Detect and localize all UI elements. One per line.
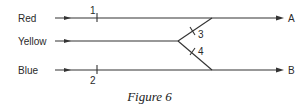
output-label-b: B bbox=[288, 65, 295, 76]
arrow-a-icon bbox=[276, 16, 284, 21]
output-label-a: A bbox=[288, 13, 295, 24]
marker-4: 4 bbox=[198, 46, 204, 57]
arrow-blue-icon bbox=[64, 68, 71, 72]
marker-1: 1 bbox=[90, 5, 96, 16]
tick-3 bbox=[190, 27, 195, 35]
input-label-blue: Blue bbox=[18, 65, 38, 76]
arrow-b-icon bbox=[276, 68, 284, 73]
marker-3: 3 bbox=[198, 29, 204, 40]
figure-caption: Figure 6 bbox=[0, 89, 299, 105]
arrow-yellow-icon bbox=[64, 39, 71, 43]
input-label-yellow: Yellow bbox=[18, 36, 47, 47]
marker-2: 2 bbox=[90, 75, 96, 86]
input-label-red: Red bbox=[18, 13, 36, 24]
arrow-red-icon bbox=[64, 16, 71, 20]
branch-up bbox=[178, 18, 212, 41]
branch-down bbox=[178, 41, 212, 70]
